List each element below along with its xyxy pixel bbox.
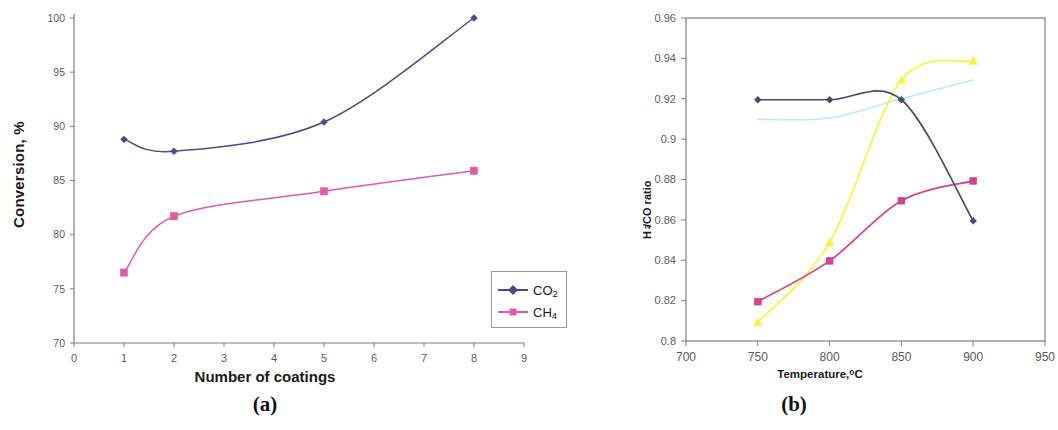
svg-text:3: 3 bbox=[221, 352, 227, 364]
svg-text:750: 750 bbox=[748, 350, 768, 364]
svg-text:80: 80 bbox=[53, 228, 65, 240]
legend-swatch-ch4 bbox=[498, 311, 528, 313]
svg-text:0.82: 0.82 bbox=[655, 294, 676, 306]
chart-a-plot-area: 7075808590951000123456789 bbox=[0, 0, 530, 430]
svg-text:0.94: 0.94 bbox=[655, 52, 676, 64]
figure-container: 7075808590951000123456789 Conversion, % … bbox=[0, 0, 1058, 430]
chart-panel-b: 0.80.820.840.860.880.90.920.940.96700750… bbox=[530, 0, 1058, 430]
svg-text:95: 95 bbox=[53, 66, 65, 78]
svg-text:0.86: 0.86 bbox=[655, 214, 676, 226]
svg-text:0.8: 0.8 bbox=[661, 335, 676, 347]
svg-text:950: 950 bbox=[1035, 350, 1055, 364]
svg-text:1: 1 bbox=[121, 352, 127, 364]
svg-text:0.92: 0.92 bbox=[655, 93, 676, 105]
svg-text:75: 75 bbox=[53, 283, 65, 295]
svg-text:850: 850 bbox=[891, 350, 911, 364]
svg-text:0: 0 bbox=[71, 352, 77, 364]
svg-text:700: 700 bbox=[676, 350, 696, 364]
svg-text:70: 70 bbox=[53, 337, 65, 349]
svg-text:0.96: 0.96 bbox=[655, 12, 676, 24]
svg-text:0.84: 0.84 bbox=[655, 254, 676, 266]
svg-text:0.9: 0.9 bbox=[661, 133, 676, 145]
chart-b-y-axis-title: H2/CO ratio bbox=[638, 150, 656, 270]
svg-text:100: 100 bbox=[47, 12, 65, 24]
svg-text:900: 900 bbox=[963, 350, 983, 364]
svg-text:7: 7 bbox=[421, 352, 427, 364]
svg-text:90: 90 bbox=[53, 120, 65, 132]
svg-text:0.88: 0.88 bbox=[655, 173, 676, 185]
chart-a-y-axis-title: Conversion, % bbox=[6, 60, 30, 290]
svg-text:800: 800 bbox=[820, 350, 840, 364]
panel-b-caption: (b) bbox=[530, 392, 1058, 417]
chart-b-x-axis-title: Temperature,oC bbox=[640, 368, 1000, 380]
svg-text:2: 2 bbox=[171, 352, 177, 364]
chart-a-x-axis-title: Number of coatings bbox=[0, 368, 530, 385]
svg-text:5: 5 bbox=[321, 352, 327, 364]
svg-text:9: 9 bbox=[521, 352, 527, 364]
chart-panel-a: 7075808590951000123456789 Conversion, % … bbox=[0, 0, 530, 430]
svg-text:6: 6 bbox=[371, 352, 377, 364]
svg-text:4: 4 bbox=[271, 352, 277, 364]
legend-swatch-co2 bbox=[498, 289, 528, 291]
svg-text:8: 8 bbox=[471, 352, 477, 364]
panel-a-caption: (a) bbox=[0, 392, 530, 417]
svg-text:85: 85 bbox=[53, 174, 65, 186]
chart-b-plot-area: 0.80.820.840.860.880.90.920.940.96700750… bbox=[530, 0, 1058, 430]
